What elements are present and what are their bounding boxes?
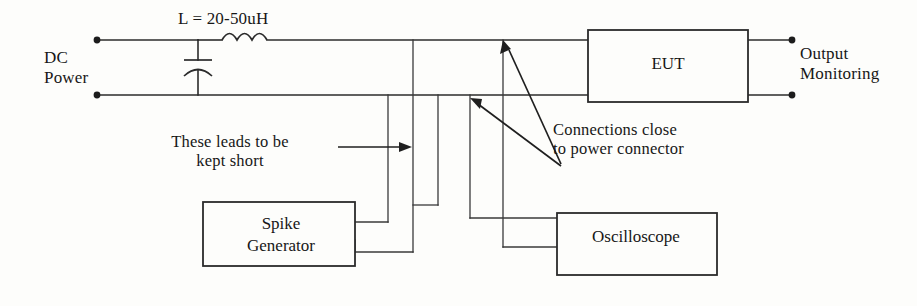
box-label-oscilloscope: Oscilloscope [556, 226, 716, 248]
arrow-leads-short-head [399, 142, 412, 152]
label-output-line2: Monitoring [800, 64, 879, 84]
note-connections-close: Connections close to power connector [553, 120, 783, 159]
note-leads-line2: kept short [135, 151, 325, 170]
box-label-eut: EUT [592, 53, 744, 75]
note-leads-line1: These leads to be [135, 132, 325, 151]
terminal-dot-dc-negative [94, 92, 101, 99]
terminal-dot-out-negative [789, 92, 796, 99]
note-leads-kept-short: These leads to be kept short [135, 132, 325, 171]
label-dc-power-line1: DC [44, 48, 88, 68]
label-dc-power: DC Power [44, 48, 88, 88]
label-dc-power-line2: Power [44, 68, 88, 88]
arrow-connections-bottom-head [470, 98, 482, 109]
note-connections-line1: Connections close [553, 120, 783, 139]
circuit-diagram: L = 20-50uH DC Power Output Monitoring T… [0, 0, 917, 306]
terminal-dot-dc-positive [94, 37, 101, 44]
box-label-spike-line1: Spike [206, 213, 356, 235]
label-output-monitoring: Output Monitoring [800, 44, 879, 84]
inductor-coil-symbol [222, 34, 267, 41]
terminal-dot-out-positive [789, 37, 796, 44]
note-connections-line2: to power connector [553, 139, 783, 158]
label-inductor-value: L = 20-50uH [178, 9, 268, 29]
box-label-spike-line2: Generator [206, 235, 356, 257]
box-label-spike-generator: Spike Generator [206, 213, 356, 257]
label-output-line1: Output [800, 44, 879, 64]
